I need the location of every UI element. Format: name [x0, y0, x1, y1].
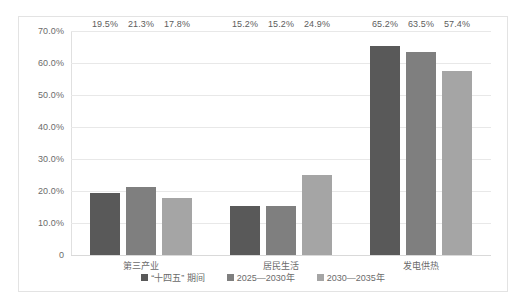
bar-group: 19.5%21.3%17.8%第三产业 [71, 31, 211, 255]
bar[interactable] [266, 206, 296, 255]
legend-item[interactable]: 2025—2030年 [227, 271, 295, 284]
bar[interactable] [90, 193, 120, 255]
bar[interactable] [230, 206, 260, 255]
bar-column: 19.5% [90, 31, 120, 255]
legend-swatch-icon [227, 274, 234, 281]
bar[interactable] [370, 46, 400, 255]
bar-column: 63.5% [406, 31, 436, 255]
category-axis-label: 发电供热 [351, 262, 491, 271]
chart-frame: 010.0%20.0%30.0%40.0%50.0%60.0%70.0% 19.… [18, 16, 508, 292]
y-axis-tick-label: 20.0% [38, 187, 64, 196]
bar[interactable] [126, 187, 156, 255]
bar-groups: 19.5%21.3%17.8%第三产业15.2%15.2%24.9%居民生活65… [71, 31, 491, 255]
chart-legend: “十四五” 期间2025—2030年2030—2035年 [19, 271, 507, 284]
y-axis-tick-label: 40.0% [38, 123, 64, 132]
y-axis-tick-label: 60.0% [38, 59, 64, 68]
legend-swatch-icon [317, 274, 324, 281]
legend-label: 2025—2030年 [237, 271, 295, 284]
bar-value-label: 15.2% [268, 20, 294, 29]
bar-set: 15.2%15.2%24.9% [211, 31, 351, 255]
bar-value-label: 21.3% [128, 20, 154, 29]
bar-group: 65.2%63.5%57.4%发电供热 [351, 31, 491, 255]
bar-value-label: 57.4% [444, 20, 470, 29]
legend-item[interactable]: 2030—2035年 [317, 271, 385, 284]
category-axis-label: 居民生活 [211, 262, 351, 271]
bar-value-label: 19.5% [92, 20, 118, 29]
category-axis-label: 第三产业 [71, 262, 211, 271]
y-axis-tick-label: 30.0% [38, 155, 64, 164]
bar[interactable] [302, 175, 332, 255]
bar-column: 15.2% [230, 31, 260, 255]
legend-label: 2030—2035年 [327, 271, 385, 284]
bar-column: 24.9% [302, 31, 332, 255]
y-axis-tick-label: 50.0% [38, 91, 64, 100]
bar-value-label: 63.5% [408, 20, 434, 29]
bar-column: 65.2% [370, 31, 400, 255]
bar-set: 19.5%21.3%17.8% [71, 31, 211, 255]
y-axis-tick-label: 10.0% [38, 219, 64, 228]
bar-value-label: 24.9% [304, 20, 330, 29]
y-axis-tick-label: 70.0% [38, 27, 64, 36]
bar[interactable] [442, 71, 472, 255]
bar-value-label: 15.2% [232, 20, 258, 29]
bar-value-label: 65.2% [372, 20, 398, 29]
bar-group: 15.2%15.2%24.9%居民生活 [211, 31, 351, 255]
bar-column: 21.3% [126, 31, 156, 255]
bar-column: 57.4% [442, 31, 472, 255]
bar-column: 17.8% [162, 31, 192, 255]
plot-area: 010.0%20.0%30.0%40.0%50.0%60.0%70.0% 19.… [71, 31, 491, 255]
legend-label: “十四五” 期间 [151, 271, 205, 284]
legend-item[interactable]: “十四五” 期间 [141, 271, 205, 284]
y-axis-tick-label: 0 [59, 251, 64, 260]
bar[interactable] [162, 198, 192, 255]
bar-set: 65.2%63.5%57.4% [351, 31, 491, 255]
bar-column: 15.2% [266, 31, 296, 255]
bar-value-label: 17.8% [164, 20, 190, 29]
bar[interactable] [406, 52, 436, 255]
gridline [71, 255, 491, 256]
legend-swatch-icon [141, 274, 148, 281]
